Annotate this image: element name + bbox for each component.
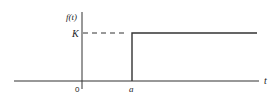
step-function-curve — [132, 33, 257, 81]
a-label: a — [129, 84, 134, 94]
y-axis-label: f(t) — [66, 12, 77, 22]
origin-label: 0 — [75, 85, 80, 94]
k-label: K — [71, 28, 80, 39]
step-function-diagram: f(t) K 0 a t — [0, 0, 276, 97]
t-axis-label: t — [264, 75, 267, 86]
